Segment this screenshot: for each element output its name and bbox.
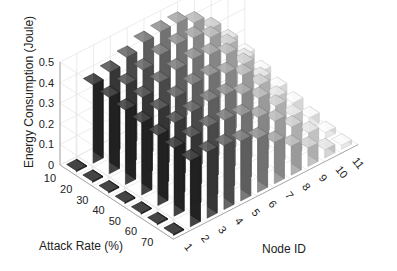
x-axis-label: Node ID xyxy=(262,242,306,256)
x-tick-label: 5 xyxy=(249,206,262,218)
bar-side-face xyxy=(94,73,104,158)
z-tick-label: 0.2 xyxy=(39,118,54,130)
z-tick-label: 0.1 xyxy=(39,138,54,150)
x-tick-label: 9 xyxy=(317,172,330,184)
bars xyxy=(67,12,352,236)
x-tick-label: 3 xyxy=(216,224,229,236)
x-tick-label: 6 xyxy=(266,198,279,210)
bar xyxy=(83,73,103,163)
bar-side-face xyxy=(142,111,152,190)
x-tick-label: 1 xyxy=(182,241,195,253)
y-tick-label: 70 xyxy=(141,236,153,248)
bar-side-face xyxy=(158,124,168,200)
x-tick-label: 4 xyxy=(233,215,246,227)
z-tick-label: 0 xyxy=(48,159,54,171)
y-tick-label: 40 xyxy=(92,204,104,216)
bar-side-face xyxy=(191,149,201,221)
bar-side-face xyxy=(208,141,218,213)
y-tick-label: 60 xyxy=(125,225,137,237)
z-tick-label: 0.5 xyxy=(39,56,54,68)
x-tick-label: 10 xyxy=(333,163,350,180)
x-tick-label: 8 xyxy=(300,181,313,193)
bar-side-face xyxy=(126,99,136,180)
y-axis-label: Attack Rate (%) xyxy=(39,239,123,253)
y-tick-label: 10 xyxy=(44,172,56,184)
y-tick-label: 50 xyxy=(109,215,121,227)
z-tick-label: 0.3 xyxy=(39,97,54,109)
x-tick-label: 11 xyxy=(350,155,366,171)
bar-side-face xyxy=(110,86,120,169)
bar3d-chart: 00.10.20.30.40.5102030405060701234567891… xyxy=(0,0,397,271)
z-tick-label: 0.4 xyxy=(39,77,54,89)
x-tick-label: 2 xyxy=(199,232,212,244)
bar-side-face xyxy=(175,137,185,211)
x-tick-label: 7 xyxy=(283,189,296,201)
z-axis-label: Energy Consumption (Joule) xyxy=(22,16,36,168)
y-tick-label: 30 xyxy=(76,194,88,206)
y-tick-label: 20 xyxy=(60,183,72,195)
